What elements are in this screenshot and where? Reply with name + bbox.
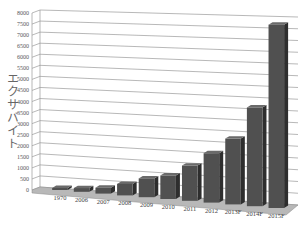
bar <box>117 181 137 195</box>
x-tick-label: 2006 <box>75 196 89 203</box>
x-tick-label: 2008 <box>118 199 131 206</box>
x-tick-label: 2010 <box>162 203 175 210</box>
bar <box>225 136 245 204</box>
x-tick-label: 2011 <box>183 205 196 212</box>
bar <box>52 186 72 190</box>
x-tick-label: 2007 <box>97 198 111 205</box>
svg-text:2000: 2000 <box>17 143 29 149</box>
x-tick-label: 2012 <box>205 207 218 214</box>
svg-text:4000: 4000 <box>17 99 29 105</box>
bar-chart-3d: 0500100015002000250030003500400045005000… <box>0 0 298 229</box>
svg-text:0: 0 <box>26 187 29 193</box>
svg-text:3500: 3500 <box>17 110 29 116</box>
bar <box>269 22 289 208</box>
svg-text:5500: 5500 <box>17 65 29 71</box>
svg-text:2500: 2500 <box>17 132 29 138</box>
y-axis-ticks: 0500100015002000250030003500400045005000… <box>17 10 29 193</box>
x-tick-label: 2009 <box>140 201 153 208</box>
x-tick-label: 1970 <box>53 194 66 201</box>
bars <box>52 22 288 208</box>
svg-text:1000: 1000 <box>17 165 29 171</box>
bar <box>182 163 202 201</box>
bar <box>139 176 159 197</box>
bar <box>204 151 224 203</box>
svg-text:3000: 3000 <box>17 121 29 127</box>
svg-text:500: 500 <box>20 176 29 182</box>
svg-text:8000: 8000 <box>17 10 29 16</box>
svg-text:1500: 1500 <box>17 154 29 160</box>
x-tick-label: 2013F <box>225 208 242 215</box>
svg-text:7500: 7500 <box>17 21 29 27</box>
svg-text:6500: 6500 <box>17 43 29 49</box>
x-tick-label: 2015F <box>268 212 285 219</box>
svg-text:7000: 7000 <box>17 32 29 38</box>
bar <box>160 173 180 199</box>
x-tick-label: 2014F <box>246 210 263 217</box>
bar <box>74 186 94 192</box>
bar <box>247 105 267 206</box>
svg-text:6000: 6000 <box>17 54 29 60</box>
svg-text:5000: 5000 <box>17 76 29 82</box>
bar <box>95 185 115 193</box>
svg-text:4500: 4500 <box>17 87 29 93</box>
